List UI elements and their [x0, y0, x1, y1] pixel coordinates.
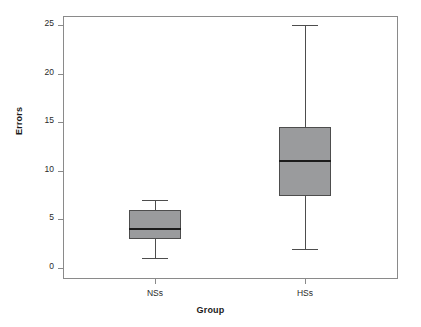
y-tick-label: 20: [45, 67, 54, 77]
whisker-lower: [155, 239, 156, 258]
whisker-upper: [305, 25, 306, 127]
x-axis-title: Group: [0, 305, 421, 315]
x-tick-mark: [155, 279, 156, 284]
y-tick-label: 25: [45, 18, 54, 28]
whisker-cap-lower: [292, 249, 318, 250]
median-line: [279, 160, 331, 162]
y-tick-label: 0: [49, 261, 54, 271]
whisker-upper: [155, 200, 156, 210]
x-tick-label: HSs: [275, 288, 335, 298]
y-tick-label: 10: [45, 164, 54, 174]
x-tick-label: NSs: [125, 288, 185, 298]
y-axis-title: Errors: [14, 107, 24, 135]
median-line: [129, 228, 181, 230]
boxplot-figure: Errors Group 0510152025 NSsHSs: [0, 0, 421, 327]
plot-area: [63, 16, 398, 279]
whisker-cap-upper: [292, 25, 318, 26]
x-tick-mark: [305, 279, 306, 284]
box-iqr: [129, 210, 181, 239]
whisker-cap-upper: [142, 200, 168, 201]
y-tick-label: 15: [45, 115, 54, 125]
y-tick-label: 5: [49, 212, 54, 222]
whisker-lower: [305, 196, 306, 248]
whisker-cap-lower: [142, 258, 168, 259]
